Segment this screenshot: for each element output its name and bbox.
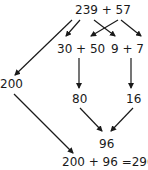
arrow-root-to-9plus7-a	[94, 20, 115, 36]
partial-sum: 96	[99, 137, 114, 151]
arrow-16-to-96	[111, 108, 133, 131]
tens-sum: 80	[72, 92, 87, 106]
final-result: 200 + 96 =296	[62, 155, 148, 169]
arrow-root-to-30plus50-a	[66, 20, 80, 36]
hundreds-value: 200	[0, 77, 23, 91]
root-expression: 239 + 57	[75, 3, 131, 17]
tens-expression: 30 + 50	[57, 42, 105, 56]
arrow-200-to-result	[14, 94, 73, 153]
arrow-root-to-9plus7-b	[121, 20, 141, 36]
ones-sum: 16	[126, 92, 141, 106]
arrow-80-to-96	[80, 108, 102, 131]
ones-expression: 9 + 7	[111, 42, 144, 56]
